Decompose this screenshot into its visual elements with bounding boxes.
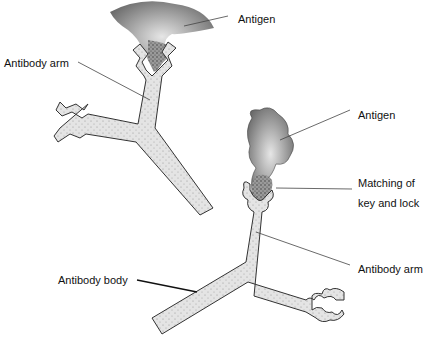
antigen-top-shape (110, 1, 214, 72)
leader-lines (78, 16, 352, 292)
leader-antibody-body (137, 280, 197, 292)
label-matching-line1: Matching of (358, 176, 415, 190)
label-antibody-arm-top: Antibody arm (4, 56, 69, 70)
diagram-art (0, 0, 429, 341)
label-matching-line2: key and lock (358, 196, 419, 210)
leader-antigen-right (280, 110, 350, 140)
label-antigen-right: Antigen (358, 108, 395, 122)
antibody-top-shape (54, 42, 213, 215)
antibody-antigen-diagram: Antigen Antibody arm Antigen Matching of… (0, 0, 429, 341)
antibody-bottom-shape (152, 182, 344, 334)
label-antibody-arm-bottom: Antibody arm (358, 262, 423, 276)
antigen-right-shape (247, 108, 293, 201)
label-antigen-top: Antigen (238, 12, 275, 26)
label-antibody-body: Antibody body (58, 273, 128, 287)
leader-matching (276, 188, 352, 189)
leader-antibody-arm-bottom (256, 232, 350, 265)
